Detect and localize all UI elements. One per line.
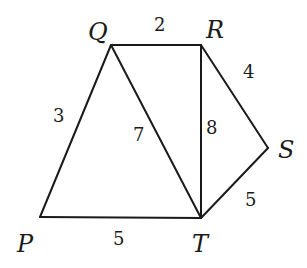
edge-label-qt: 7 — [133, 124, 144, 145]
edge-label-rt: 8 — [206, 117, 217, 138]
vertex-label-q: Q — [88, 18, 108, 46]
edge-pq — [40, 45, 111, 217]
graph-diagram: Q R S P T 2 3 4 5 5 7 8 — [0, 0, 307, 268]
edge-label-st: 5 — [245, 189, 256, 210]
edge-label-pq: 3 — [53, 105, 64, 126]
vertex-label-p: P — [16, 230, 34, 258]
edge-label-qr: 2 — [154, 14, 165, 35]
vertex-label-r: R — [205, 16, 224, 44]
edge-pt — [40, 217, 201, 218]
vertex-label-t: T — [192, 230, 210, 258]
edge-label-pt: 5 — [113, 228, 124, 249]
vertex-label-s: S — [278, 136, 294, 164]
edge-qt — [111, 45, 201, 218]
edge-st — [201, 148, 268, 218]
edge-label-rs: 4 — [243, 61, 254, 82]
